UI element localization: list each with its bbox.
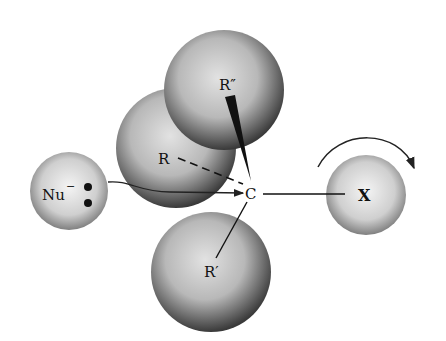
label-x: X bbox=[358, 186, 371, 205]
label-r-prime: R′ bbox=[204, 263, 219, 281]
sn2-diagram: Nu − C X R R′ R″ bbox=[0, 0, 446, 341]
label-r-double-prime: R″ bbox=[219, 76, 236, 94]
label-r: R bbox=[158, 150, 170, 168]
lone-pair-icon-dot bbox=[84, 199, 92, 207]
label-c: C bbox=[245, 185, 256, 203]
label-nu-charge: − bbox=[66, 180, 75, 193]
lone-pair-icon bbox=[84, 183, 92, 191]
label-nu: Nu bbox=[42, 186, 65, 204]
diagram-canvas: Nu − C X R R′ R″ bbox=[0, 0, 446, 341]
